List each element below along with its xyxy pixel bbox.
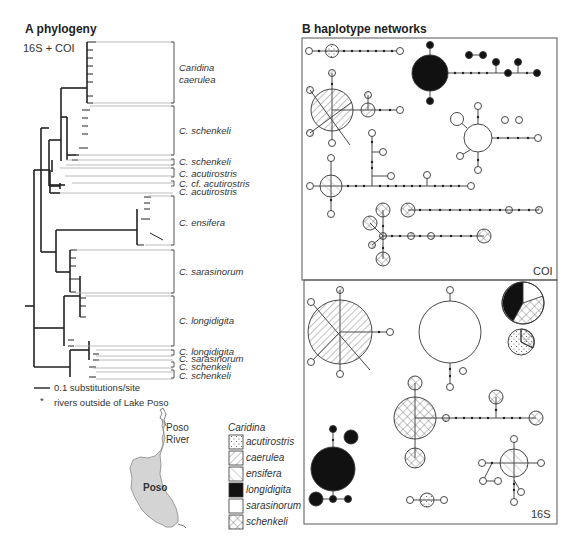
network-label-coi: COI — [533, 265, 553, 277]
haplotype-networks — [0, 0, 569, 551]
coi-network — [306, 42, 543, 267]
network-label-16s: 16S — [531, 508, 551, 520]
16s-network — [308, 282, 545, 507]
